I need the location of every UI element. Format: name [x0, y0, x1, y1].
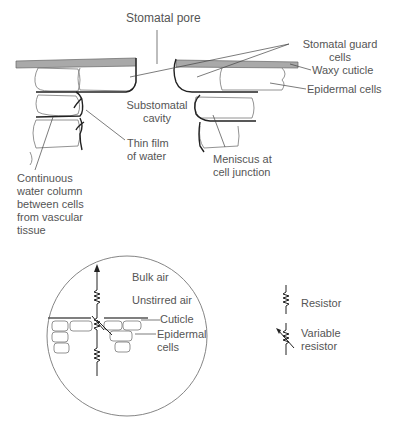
label-epidermal-cells: Epidermal cells	[307, 83, 382, 96]
legend-resistor: Resistor	[301, 297, 341, 310]
legend-symbols	[278, 285, 294, 355]
legend-variable-resistor: Variable resistor	[301, 327, 341, 353]
label-thin-film: Thin film of water	[127, 137, 169, 163]
left-cells	[30, 66, 136, 165]
resistor-chain	[92, 270, 112, 376]
label-water-column: Continuous water column between cells fr…	[17, 172, 84, 237]
left-water-path	[36, 58, 136, 150]
arrow-up-icon	[94, 264, 100, 272]
waxy-cuticle-left	[16, 58, 136, 68]
label-epidermal-inset: Epidermal cells	[157, 328, 207, 354]
label-guard-cells: Stomatal guard cells	[290, 38, 390, 64]
label-substomatal-cavity: Substomatal cavity	[122, 99, 192, 125]
label-waxy-cuticle: Waxy cuticle	[312, 64, 373, 77]
label-cuticle: Cuticle	[160, 313, 194, 326]
label-unstirred-air: Unstirred air	[132, 294, 192, 307]
label-stomatal-pore: Stomatal pore	[126, 12, 201, 25]
label-bulk-air: Bulk air	[132, 271, 169, 284]
label-meniscus: Meniscus at cell junction	[213, 153, 272, 179]
right-cells	[195, 68, 285, 148]
